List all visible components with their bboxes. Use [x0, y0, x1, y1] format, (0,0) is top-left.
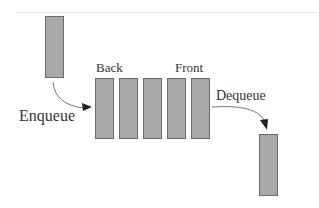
enqueue-arrow-icon	[53, 82, 92, 111]
arrows	[0, 0, 319, 208]
dequeue-arrow-icon	[212, 107, 268, 130]
